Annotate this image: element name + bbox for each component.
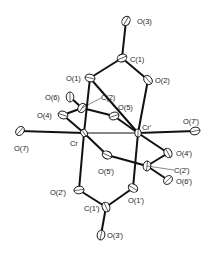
atom-o3-ellipsoid bbox=[120, 15, 132, 27]
label-o3-prime: O(3') bbox=[107, 232, 123, 240]
label-c1: C(1) bbox=[130, 56, 144, 64]
atom-c1p-ellipsoid bbox=[100, 201, 111, 213]
label-o2-prime: O(2') bbox=[50, 189, 66, 197]
label-o4: O(4) bbox=[37, 112, 52, 120]
atom-o7-ellipsoid bbox=[14, 125, 26, 138]
atom-o7p-ellipsoid bbox=[189, 126, 200, 136]
bond-o4p-crp bbox=[138, 133, 168, 153]
bond-o7-cr bbox=[20, 131, 84, 133]
bond-crp-o1p bbox=[133, 133, 138, 188]
label-c1-prime: C(1') bbox=[84, 205, 100, 213]
label-c2: C(2) bbox=[101, 94, 115, 102]
atom-o4p-ellipsoid bbox=[162, 147, 173, 159]
label-o4-prime: O(4') bbox=[176, 150, 192, 158]
atom-crp-ellipsoid bbox=[135, 129, 142, 137]
ortep-diagram: O(3) C(1) O(1) O(2) O(6) C(2) O(5) O(4) … bbox=[0, 0, 213, 258]
label-o1-prime: O(1') bbox=[128, 197, 144, 205]
atom-o6p-ellipsoid bbox=[162, 174, 174, 186]
leader-line-c2 bbox=[82, 98, 101, 108]
bond-c1-o1 bbox=[90, 58, 122, 78]
label-o7-prime: O(7') bbox=[183, 118, 199, 126]
label-o5-prime: O(5') bbox=[98, 168, 114, 176]
label-cr: Cr bbox=[70, 140, 78, 148]
molecule-structure bbox=[0, 0, 213, 258]
bond-o3-c1 bbox=[122, 21, 126, 58]
atom-o3p-ellipsoid bbox=[96, 229, 106, 240]
label-cr-prime: Cr' bbox=[142, 124, 151, 132]
label-o7: O(7) bbox=[14, 145, 29, 153]
label-o2: O(2) bbox=[155, 77, 170, 85]
bond-o5p-c2p bbox=[107, 155, 147, 166]
atom-o6-ellipsoid bbox=[66, 92, 74, 102]
label-o1: O(1) bbox=[66, 75, 81, 83]
label-o6: O(6) bbox=[45, 94, 60, 102]
label-o5: O(5) bbox=[118, 104, 133, 112]
bond-cr-o2p bbox=[79, 133, 84, 190]
label-o6-prime: O(6') bbox=[176, 178, 192, 186]
label-c2-prime: C(2') bbox=[174, 167, 190, 175]
label-o3: O(3) bbox=[137, 18, 152, 26]
